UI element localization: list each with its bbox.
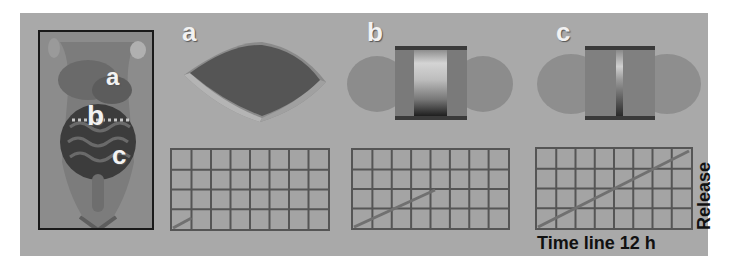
- x-axis-label: Time line 12 h: [537, 234, 656, 252]
- release-chart-b: [351, 148, 510, 230]
- digestive-tract-icon: [40, 32, 154, 230]
- release-grid-a: [172, 150, 328, 229]
- tablet-c-icon: [535, 44, 705, 122]
- formulation-label-b: b: [367, 19, 383, 45]
- region-label-b: b: [87, 102, 104, 130]
- release-chart-a: [170, 148, 330, 231]
- release-grid-c: [537, 149, 691, 228]
- region-label-c: c: [112, 142, 126, 168]
- tablet-b-icon: [345, 44, 515, 122]
- release-chart-c: [535, 147, 693, 230]
- formulation-label-c: c: [556, 19, 570, 45]
- release-line-a: [173, 218, 192, 228]
- y-axis-label: Release: [695, 162, 713, 230]
- release-grid-b: [353, 150, 508, 228]
- region-label-a: a: [106, 65, 119, 89]
- tablet-a-icon: [180, 40, 330, 126]
